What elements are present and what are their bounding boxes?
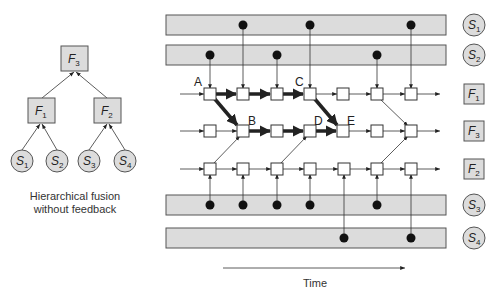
hierarchical-tree: F3 F1 F2 S1 S2 S3 S4 Hierarchical fus bbox=[11, 46, 136, 215]
edge-f1-f3 bbox=[42, 72, 74, 98]
legend-s4: S4 bbox=[463, 227, 485, 249]
tree-node-s2: S2 bbox=[46, 150, 68, 172]
edge-s4-f2 bbox=[109, 124, 125, 150]
label-c: C bbox=[295, 75, 304, 89]
tree-node-f3: F3 bbox=[61, 46, 88, 71]
label-d: D bbox=[314, 114, 323, 128]
tree-node-s4: S4 bbox=[114, 150, 136, 172]
legend-f1: F1 bbox=[464, 84, 484, 104]
legend-s3: S3 bbox=[463, 194, 485, 216]
edge-f2-f3 bbox=[76, 72, 107, 98]
tree-node-f1: F1 bbox=[28, 98, 55, 123]
tree-node-s3: S3 bbox=[78, 150, 100, 172]
edge-s2-f1 bbox=[42, 124, 57, 150]
edge-s3-f2 bbox=[89, 124, 107, 150]
tree-node-s1: S1 bbox=[11, 150, 33, 172]
label-a: A bbox=[194, 75, 202, 89]
legend-f2: F2 bbox=[464, 159, 484, 179]
tree-node-f2: F2 bbox=[94, 98, 121, 123]
tree-caption-line1: Hierarchical fusion bbox=[30, 190, 120, 202]
legend-f3: F3 bbox=[464, 121, 484, 141]
fusion-diagram: F3 F1 F2 S1 S2 S3 S4 Hierarchical fus bbox=[0, 0, 499, 299]
tree-caption-line2: without feedback bbox=[33, 203, 117, 215]
time-label: Time bbox=[303, 277, 327, 289]
band-s4 bbox=[166, 228, 446, 248]
edge-s1-f1 bbox=[22, 124, 40, 150]
legend-s2: S2 bbox=[463, 44, 485, 66]
timeline-diagram: A B C D E S1 S2 F1 F3 F2 S3 bbox=[166, 14, 485, 289]
label-b: B bbox=[248, 114, 256, 128]
legend-s1: S1 bbox=[463, 14, 485, 36]
label-e: E bbox=[347, 114, 355, 128]
